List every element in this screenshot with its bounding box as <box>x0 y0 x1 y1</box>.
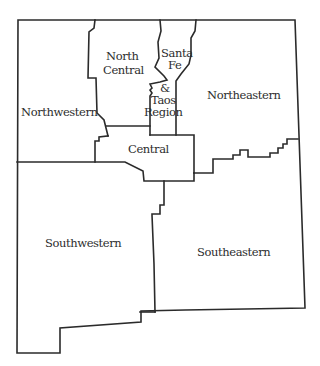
boundary-northwestern-central <box>95 136 108 162</box>
boundary-northeastern-southeastern <box>194 139 298 173</box>
boundary-southwestern-southeastern <box>152 181 164 312</box>
label-north-central: North Central <box>103 49 145 77</box>
region-map: Northwestern North Central Santa Fe & Ta… <box>0 0 320 366</box>
label-southwestern: Southwestern <box>45 236 122 250</box>
boundary-central-southwestern <box>17 162 194 181</box>
label-central: Central <box>128 142 170 156</box>
map-canvas: Northwestern North Central Santa Fe & Ta… <box>0 0 320 366</box>
label-southeastern: Southeastern <box>197 245 271 259</box>
label-northeastern: Northeastern <box>207 88 282 102</box>
label-northwestern: Northwestern <box>21 105 99 119</box>
state-outline <box>17 20 305 353</box>
label-santa-fe-taos: Santa Fe & Taos Region <box>144 46 196 119</box>
